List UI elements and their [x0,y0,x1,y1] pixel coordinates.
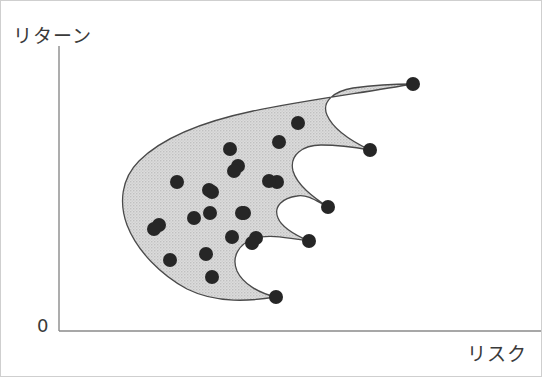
data-point [302,234,316,248]
data-point [363,143,377,157]
risk-return-figure: リターン リスク 0 [0,0,542,377]
data-point [187,211,201,225]
data-point [321,200,335,214]
data-point [269,290,283,304]
data-point [205,270,219,284]
data-point [406,77,420,91]
data-point [203,206,217,220]
data-point [245,236,259,250]
data-point [225,230,239,244]
data-point [199,247,213,261]
data-point [147,222,161,236]
x-axis-label: リスク [467,339,527,366]
data-point [235,206,249,220]
data-point [291,116,305,130]
feasible-region-group [123,84,413,300]
scatter-plot-canvas [1,1,542,377]
data-point [202,183,216,197]
feasible-region-shape [123,84,413,300]
data-point [262,174,276,188]
data-point [272,135,286,149]
data-point [170,175,184,189]
data-point [223,142,237,156]
data-point [163,253,177,267]
origin-label: 0 [37,315,48,336]
y-axis-label: リターン [13,21,92,48]
data-point [227,164,241,178]
